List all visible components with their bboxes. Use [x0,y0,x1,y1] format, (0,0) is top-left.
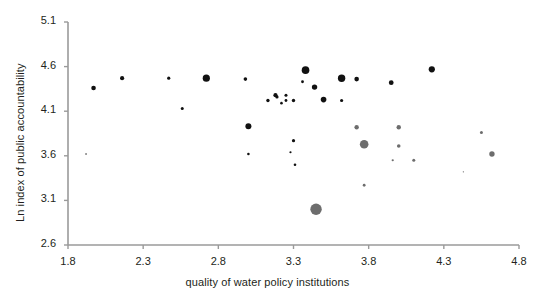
data-point-black [338,75,345,82]
data-point-black [429,66,435,72]
data-point-gray [480,131,483,134]
data-point-black [302,66,310,74]
data-point-black [266,99,269,102]
data-point-black [389,80,394,85]
x-tick-label: 4.8 [499,255,535,267]
y-tick-label: 4.1 [26,103,56,115]
data-point-gray [360,140,369,149]
data-points-layer [85,66,494,215]
x-tick-label: 4.3 [424,255,464,267]
data-point-black [181,107,184,110]
data-point-black [167,77,170,80]
data-point-black [354,77,359,82]
y-tick-label: 2.6 [26,237,56,249]
data-point-black [203,75,210,82]
tick-marks [64,22,519,249]
x-tick-label: 1.8 [48,255,88,267]
data-point-gray [354,125,358,129]
x-tick-label: 2.3 [123,255,163,267]
data-point-black [91,86,96,91]
x-tick-label: 2.8 [198,255,238,267]
data-point-black [321,97,327,103]
data-point-black [292,99,295,102]
y-tick-label: 5.1 [26,14,56,26]
data-point-gray [489,151,494,156]
y-tick-label: 3.6 [26,148,56,160]
x-tick-label: 3.3 [274,255,314,267]
data-point-black [245,123,251,129]
data-point-gray [397,125,401,129]
data-point-black [312,84,317,89]
data-point-gray [392,159,394,161]
scatter-plot-figure: Ln index of public accountability qualit… [0,0,535,299]
data-point-black [340,99,343,102]
data-point-gray [310,204,321,215]
axis-lines [68,22,519,245]
data-point-black [301,80,304,83]
data-point-gray [363,184,366,187]
data-point-gray [463,171,464,172]
x-tick-label: 3.8 [349,255,389,267]
data-point-black [294,163,297,166]
data-point-gray [412,159,415,162]
y-tick-label: 4.6 [26,59,56,71]
data-point-black [247,153,250,156]
data-point-black [292,139,295,142]
data-point-black [284,94,287,97]
y-tick-label: 3.1 [26,192,56,204]
data-point-black [289,151,291,153]
data-point-black [275,95,278,98]
data-point-black [120,76,124,80]
data-point-gray [397,144,401,148]
data-point-black [285,99,288,102]
data-point-black [85,153,86,154]
data-point-black [280,102,283,105]
data-point-black [244,77,248,81]
